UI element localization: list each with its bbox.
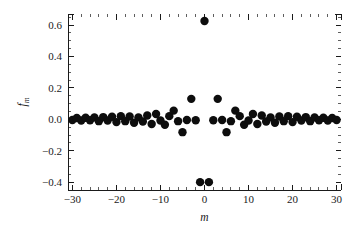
data-point [187,95,195,103]
data-point [209,116,217,124]
x-tick-label: 10 [243,193,255,205]
y-tick-label: 0.2 [48,82,62,94]
data-point [214,95,222,103]
x-tick-label: 0 [202,193,208,205]
y-tick-label: −0.4 [42,176,62,188]
data-point [218,116,226,124]
x-tick-label: 30 [331,193,343,205]
data-point [169,106,177,114]
data-point [161,121,169,129]
data-point [178,128,186,136]
data-point [253,120,261,128]
data-point [227,117,235,125]
plot-axes [68,14,341,190]
data-point [332,116,340,124]
y-axis-title: fm [16,97,31,106]
data-point [143,111,151,119]
data-point [196,178,204,186]
data-point [222,128,230,136]
x-axis-title: m [200,211,208,223]
data-point [191,116,199,124]
x-tick-label: 20 [287,193,299,205]
data-point-group [68,17,341,186]
y-tick-label: 0.4 [48,50,62,62]
x-tick-label: −10 [152,193,170,205]
data-point [205,178,213,186]
data-point [147,120,155,128]
y-tick-label: 0.6 [48,19,62,31]
x-tick-label: −30 [64,193,82,205]
data-point [174,117,182,125]
data-point [249,110,257,118]
scatter-plot: −30−20−100102030−0.4−0.20.00.20.40.6mfm [0,0,356,230]
x-tick-label: −20 [108,193,126,205]
data-point [236,112,244,120]
data-point [183,116,191,124]
y-tick-label: 0.0 [48,113,62,125]
data-point [200,17,208,25]
y-tick-label: −0.2 [42,145,62,157]
figure-container: −30−20−100102030−0.4−0.20.00.20.40.6mfm [0,0,356,230]
